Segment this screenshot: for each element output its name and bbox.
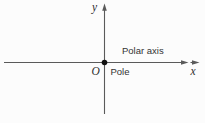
diagram-canvas: y x O Pole Polar axis: [0, 0, 205, 123]
origin-label: O: [92, 65, 101, 77]
pole-label: Pole: [111, 66, 130, 77]
origin-dot: [102, 60, 108, 66]
y-axis-label: y: [91, 1, 98, 14]
x-axis-label: x: [190, 65, 197, 77]
polar-axis-arrowhead: [181, 60, 189, 65]
y-axis-arrowhead: [102, 4, 107, 11]
polar-axis-label: Polar axis: [122, 45, 164, 56]
polar-coordinate-diagram: y x O Pole Polar axis: [0, 0, 205, 123]
